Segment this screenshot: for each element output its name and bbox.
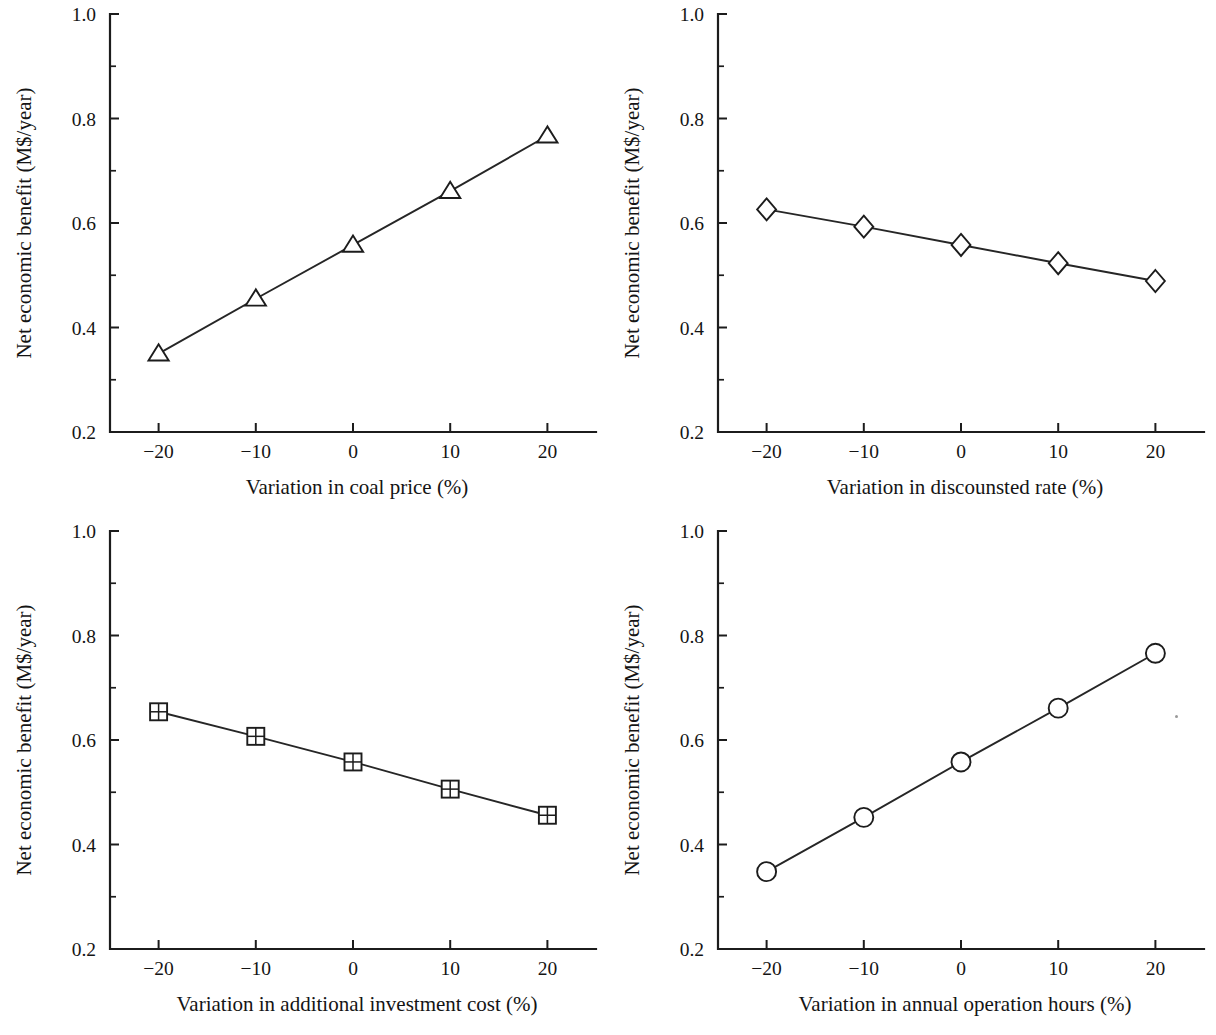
x-tick-label: 0 <box>956 441 966 462</box>
x-tick-label: 10 <box>440 441 460 462</box>
data-point-group <box>757 198 1165 292</box>
chart-panel-coal-price: 0.20.40.60.81.0−20−1001020Variation in c… <box>0 0 608 517</box>
y-tick-label: 0.8 <box>72 109 96 130</box>
data-point-marker <box>1146 270 1165 292</box>
data-point-marker <box>343 236 363 252</box>
chart-panel-additional-investment-cost: 0.20.40.60.81.0−20−1001020Variation in a… <box>0 517 608 1034</box>
chart-panel-discounted-rate: 0.20.40.60.81.0−20−1001020Variation in d… <box>608 0 1216 517</box>
x-tick-label: −10 <box>849 441 880 462</box>
chart-canvas-additional-investment-cost: 0.20.40.60.81.0−20−1001020Variation in a… <box>0 517 608 1034</box>
y-tick-label: 0.2 <box>680 422 704 443</box>
axis-lines <box>110 14 596 432</box>
x-axis-label: Variation in coal price (%) <box>246 475 469 499</box>
x-tick-label: −10 <box>241 958 272 979</box>
x-tick-label: 10 <box>1048 958 1068 979</box>
y-tick-label: 0.6 <box>680 730 705 751</box>
x-axis-label: Variation in additional investment cost … <box>177 992 538 1016</box>
y-tick-label: 1.0 <box>72 521 96 542</box>
chart-canvas-coal-price: 0.20.40.60.81.0−20−1001020Variation in c… <box>0 0 608 517</box>
y-tick-label: 0.8 <box>680 626 704 647</box>
y-tick-label: 0.6 <box>72 730 97 751</box>
data-point-marker <box>757 198 776 220</box>
data-point-marker <box>148 344 168 360</box>
y-tick-label: 0.4 <box>680 318 705 339</box>
axis-lines <box>718 531 1204 949</box>
y-tick-label: 0.2 <box>72 939 96 960</box>
y-axis-label: Net economic benefit (M$/year) <box>12 604 36 875</box>
data-point-marker <box>1146 644 1165 663</box>
y-tick-label: 0.4 <box>72 318 97 339</box>
scan-artifact-speck <box>1175 715 1178 718</box>
y-tick-label: 0.4 <box>72 835 97 856</box>
axis-lines <box>110 531 596 949</box>
chart-canvas-annual-operation-hours: 0.20.40.60.81.0−20−1001020Variation in a… <box>608 517 1216 1034</box>
data-point-marker <box>537 126 557 142</box>
data-point-marker <box>1049 252 1068 274</box>
data-point-marker <box>952 752 971 771</box>
x-tick-label: −20 <box>751 958 782 979</box>
y-axis-label: Net economic benefit (M$/year) <box>12 87 36 358</box>
x-tick-label: −20 <box>751 441 782 462</box>
x-axis-label: Variation in annual operation hours (%) <box>799 992 1132 1016</box>
y-tick-label: 0.6 <box>680 213 705 234</box>
chart-canvas-discounted-rate: 0.20.40.60.81.0−20−1001020Variation in d… <box>608 0 1216 517</box>
x-tick-label: 0 <box>956 958 966 979</box>
x-tick-label: 20 <box>538 441 558 462</box>
x-tick-label: 20 <box>1146 441 1166 462</box>
x-tick-label: 10 <box>440 958 460 979</box>
x-tick-label: 0 <box>348 441 358 462</box>
x-tick-label: 10 <box>1048 441 1068 462</box>
y-tick-label: 0.4 <box>680 835 705 856</box>
x-tick-label: 20 <box>538 958 558 979</box>
x-tick-label: 0 <box>348 958 358 979</box>
y-axis-label: Net economic benefit (M$/year) <box>620 87 644 358</box>
x-tick-label: 20 <box>1146 958 1166 979</box>
y-tick-label: 1.0 <box>680 521 704 542</box>
data-point-marker <box>757 862 776 881</box>
y-axis-label: Net economic benefit (M$/year) <box>620 604 644 875</box>
axis-lines <box>718 14 1204 432</box>
y-tick-label: 0.6 <box>72 213 97 234</box>
data-point-group <box>150 703 556 823</box>
sensitivity-analysis-figure: 0.20.40.60.81.0−20−1001020Variation in c… <box>0 0 1216 1035</box>
data-point-marker <box>854 216 873 238</box>
y-tick-label: 1.0 <box>680 4 704 25</box>
data-point-marker <box>952 234 971 256</box>
y-tick-label: 0.8 <box>680 109 704 130</box>
y-tick-label: 0.8 <box>72 626 96 647</box>
y-tick-label: 1.0 <box>72 4 96 25</box>
data-point-group <box>757 644 1165 881</box>
data-point-marker <box>1049 699 1068 718</box>
x-axis-label: Variation in discounsted rate (%) <box>827 475 1103 499</box>
x-tick-label: −20 <box>143 441 174 462</box>
x-tick-label: −10 <box>849 958 880 979</box>
data-point-marker <box>440 182 460 198</box>
x-tick-label: −10 <box>241 441 272 462</box>
x-tick-label: −20 <box>143 958 174 979</box>
y-tick-label: 0.2 <box>72 422 96 443</box>
y-tick-label: 0.2 <box>680 939 704 960</box>
data-point-marker <box>246 289 266 305</box>
data-point-marker <box>854 808 873 827</box>
chart-panel-annual-operation-hours: 0.20.40.60.81.0−20−1001020Variation in a… <box>608 517 1216 1034</box>
